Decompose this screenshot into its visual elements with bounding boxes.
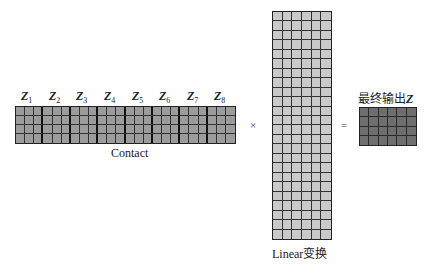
matrix-cell <box>292 211 302 220</box>
matrix-cell <box>43 107 52 116</box>
matrix-cell <box>283 116 293 125</box>
matrix-cell <box>116 125 125 134</box>
matrix-cell <box>273 182 283 191</box>
matrix-cell <box>217 134 226 143</box>
matrix-cell <box>407 108 416 117</box>
matrix-cell <box>321 59 331 68</box>
matrix-cell <box>388 136 397 145</box>
matrix-cell <box>397 117 406 126</box>
matrix-cell <box>321 182 331 191</box>
matrix-cell <box>171 116 180 125</box>
matrix-cell <box>208 116 217 125</box>
matrix-cell <box>189 116 198 125</box>
matrix-cell <box>89 107 98 116</box>
matrix-cell <box>283 88 293 97</box>
matrix-cell <box>379 127 388 136</box>
matrix-cell <box>292 116 302 125</box>
matrix-cell <box>292 182 302 191</box>
matrix-cell <box>34 125 43 134</box>
matrix-cell <box>153 107 162 116</box>
matrix-cell <box>369 117 378 126</box>
matrix-cell <box>312 40 322 49</box>
matrix-cell <box>302 69 312 78</box>
matrix-cell <box>302 192 312 201</box>
matrix-cell <box>283 125 293 134</box>
matrix-cell <box>379 117 388 126</box>
matrix-cell <box>302 21 312 30</box>
matrix-cell <box>312 192 322 201</box>
matrix-cell <box>312 107 322 116</box>
matrix-cell <box>312 230 322 239</box>
matrix-cell <box>302 50 312 59</box>
matrix-cell <box>292 163 302 172</box>
matrix-cell <box>283 201 293 210</box>
matrix-cell <box>302 107 312 116</box>
matrix-cell <box>283 182 293 191</box>
matrix-cell <box>302 135 312 144</box>
matrix-cell <box>302 154 312 163</box>
matrix-cell <box>312 182 322 191</box>
matrix-cell <box>292 21 302 30</box>
matrix-cell <box>273 69 283 78</box>
matrix-cell <box>43 125 52 134</box>
matrix-cell <box>273 116 283 125</box>
matrix-cell <box>369 127 378 136</box>
matrix-cell <box>283 40 293 49</box>
matrix-cell <box>126 116 135 125</box>
matrix-cell <box>321 40 331 49</box>
matrix-cell <box>397 127 406 136</box>
matrix-cell <box>107 134 116 143</box>
matrix-cell <box>171 107 180 116</box>
z3-label: Z3 <box>76 89 87 105</box>
matrix-cell <box>98 134 107 143</box>
matrix-cell <box>302 220 312 229</box>
matrix-cell <box>25 107 34 116</box>
matrix-cell <box>292 135 302 144</box>
matrix-cell <box>107 107 116 116</box>
matrix-cell <box>171 134 180 143</box>
matrix-cell <box>199 134 208 143</box>
multiply-symbol: × <box>250 119 256 131</box>
matrix-cell <box>273 88 283 97</box>
matrix-cell <box>292 201 302 210</box>
matrix-cell <box>321 107 331 116</box>
matrix-cell <box>153 125 162 134</box>
matrix-cell <box>388 108 397 117</box>
matrix-cell <box>62 116 71 125</box>
matrix-cell <box>34 107 43 116</box>
matrix-cell <box>312 154 322 163</box>
matrix-cell <box>292 50 302 59</box>
matrix-cell <box>407 127 416 136</box>
matrix-cell <box>53 107 62 116</box>
matrix-cell <box>116 116 125 125</box>
matrix-cell <box>273 192 283 201</box>
matrix-cell <box>199 116 208 125</box>
matrix-cell <box>283 69 293 78</box>
matrix-cell <box>217 107 226 116</box>
matrix-cell <box>116 107 125 116</box>
matrix-cell <box>321 21 331 30</box>
z5-label: Z5 <box>132 89 143 105</box>
matrix-cell <box>25 134 34 143</box>
matrix-cell <box>312 78 322 87</box>
matrix-cell <box>312 116 322 125</box>
matrix-cell <box>273 40 283 49</box>
matrix-cell <box>135 134 144 143</box>
matrix-cell <box>321 173 331 182</box>
z2-label: Z2 <box>49 89 60 105</box>
matrix-cell <box>302 40 312 49</box>
matrix-cell <box>180 116 189 125</box>
matrix-cell <box>89 134 98 143</box>
matrix-cell <box>283 220 293 229</box>
matrix-cell <box>273 12 283 21</box>
matrix-cell <box>98 116 107 125</box>
matrix-cell <box>312 59 322 68</box>
matrix-cell <box>273 201 283 210</box>
matrix-cell <box>283 107 293 116</box>
matrix-cell <box>71 125 80 134</box>
matrix-cell <box>126 134 135 143</box>
matrix-cell <box>312 31 322 40</box>
matrix-cell <box>199 107 208 116</box>
matrix-cell <box>116 134 125 143</box>
matrix-cell <box>321 144 331 153</box>
